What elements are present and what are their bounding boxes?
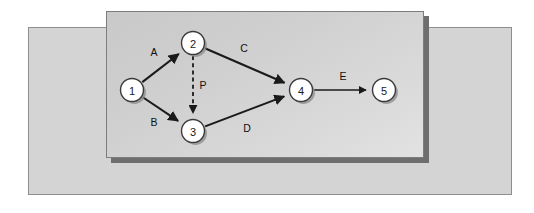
node-2: 2	[182, 32, 207, 57]
network-diagram: 12345 ABCDEP	[107, 12, 424, 158]
edge-label-b: B	[150, 116, 157, 128]
node-3: 3	[182, 120, 207, 145]
edge-label-a: A	[150, 46, 157, 58]
edge-b	[143, 97, 178, 121]
edge-label-e: E	[339, 70, 346, 82]
node-label-2: 2	[190, 38, 196, 50]
node-label-4: 4	[298, 85, 304, 97]
node-4: 4	[290, 79, 315, 104]
edge-label-c: C	[240, 42, 248, 54]
figure-root: 12345 ABCDEP	[0, 0, 534, 213]
edge-labels-layer: ABCDEP	[150, 42, 346, 134]
edge-label-d: D	[243, 122, 251, 134]
nodes-layer: 12345	[121, 32, 398, 145]
edge-label-p: P	[199, 79, 206, 91]
edge-a	[142, 54, 178, 82]
edges-layer	[142, 48, 366, 126]
diagram-panel: 12345 ABCDEP	[106, 11, 424, 158]
node-label-5: 5	[381, 85, 387, 97]
node-5: 5	[373, 79, 398, 104]
node-label-1: 1	[129, 85, 135, 97]
node-label-3: 3	[190, 126, 196, 138]
node-1: 1	[121, 79, 146, 104]
